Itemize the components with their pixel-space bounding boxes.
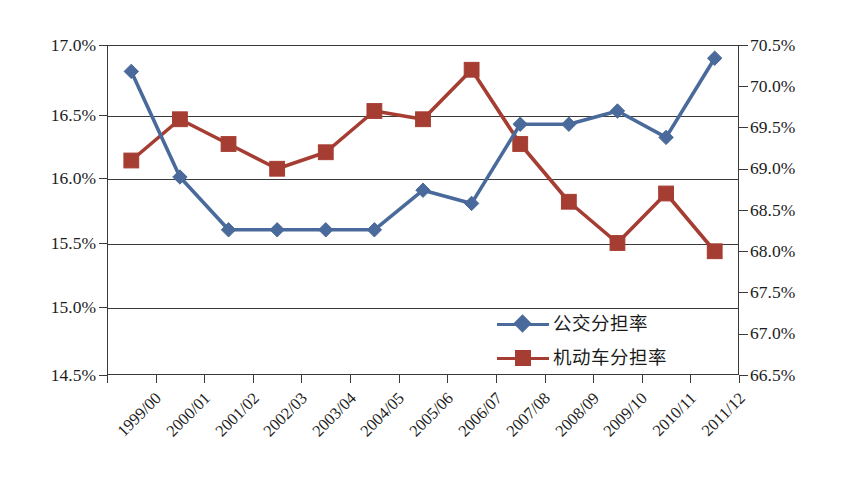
x-tick-mark: [253, 375, 254, 383]
y-tick-mark-right: [739, 169, 748, 170]
y-tick-label-right: 67.5%: [750, 284, 795, 302]
y-tick-label-left: 15.5%: [51, 235, 96, 253]
x-tick-mark: [545, 375, 546, 383]
y-tick-mark-right: [739, 127, 748, 128]
legend-entry-gongjiao: 公交分担率: [497, 307, 727, 341]
x-tick-mark: [107, 375, 108, 383]
x-tick-mark: [399, 375, 400, 383]
y-tick-label-right: 66.5%: [750, 367, 795, 385]
y-tick-label-right: 69.5%: [750, 119, 795, 137]
y-tick-mark-right: [739, 86, 748, 87]
legend-label: 机动车分担率: [553, 349, 667, 368]
x-tick-mark: [447, 375, 448, 383]
y-tick-mark-right: [739, 45, 748, 46]
y-tick-mark-right: [739, 292, 748, 293]
gridline: [108, 179, 738, 180]
x-tick-mark: [301, 375, 302, 383]
y-tick-mark-right: [739, 334, 748, 335]
y-axis-right: 70.5% 70.0% 69.5% 69.0% 68.5% 68.0% 67.5…: [750, 0, 847, 486]
y-tick-label-right: 70.5%: [750, 37, 795, 55]
y-tick-label-right: 69.0%: [750, 160, 795, 178]
y-tick-mark-left: [99, 307, 107, 308]
gridline: [108, 116, 738, 117]
y-tick-mark-left: [99, 178, 107, 179]
legend-label: 公交分担率: [553, 315, 648, 334]
y-axis-left: 17.0% 16.5% 16.0% 15.5% 15.0% 14.5%: [0, 0, 96, 486]
legend: 公交分担率 机动车分担率: [497, 307, 727, 375]
x-tick-mark: [156, 375, 157, 383]
y-tick-label-right: 68.0%: [750, 243, 795, 261]
y-tick-label-right: 68.5%: [750, 202, 795, 220]
y-tick-mark-right: [739, 375, 748, 376]
y-tick-mark-right: [739, 210, 748, 211]
x-tick-mark: [593, 375, 594, 383]
y-tick-mark-left: [99, 243, 107, 244]
x-tick-mark: [642, 375, 643, 383]
y-tick-label-left: 16.0%: [51, 170, 96, 188]
y-tick-mark-left: [99, 45, 107, 46]
x-tick-mark: [350, 375, 351, 383]
x-tick-mark: [690, 375, 691, 383]
legend-entry-jidongche: 机动车分担率: [497, 341, 727, 375]
y-tick-mark-left: [99, 375, 107, 376]
chart-container: 17.0% 16.5% 16.0% 15.5% 15.0% 14.5% 70.5…: [0, 0, 847, 486]
y-tick-label-right: 67.0%: [750, 325, 795, 343]
x-tick-mark: [739, 375, 740, 383]
y-tick-mark-right: [739, 251, 748, 252]
y-tick-label-left: 17.0%: [51, 37, 96, 55]
x-tick-mark: [496, 375, 497, 383]
y-tick-label-left: 14.5%: [51, 367, 96, 385]
gridline: [108, 244, 738, 245]
legend-marker-square-icon: [497, 347, 549, 369]
x-tick-mark: [204, 375, 205, 383]
y-tick-label-left: 16.5%: [51, 107, 96, 125]
y-tick-label-left: 15.0%: [51, 299, 96, 317]
legend-marker-diamond-icon: [497, 313, 549, 335]
y-tick-label-right: 70.0%: [750, 78, 795, 96]
y-tick-mark-left: [99, 115, 107, 116]
